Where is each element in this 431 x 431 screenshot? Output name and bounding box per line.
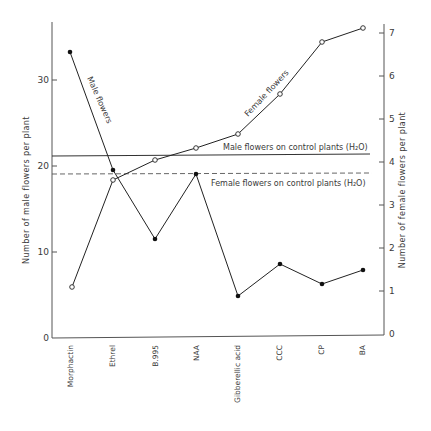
left-tick-label: 0 [43, 333, 49, 343]
left-tick-label: 20 [38, 161, 50, 171]
male-point [68, 50, 73, 55]
right-tick-label: 2 [389, 243, 395, 253]
right-axis-title: Number of female flowers per plant [398, 112, 407, 268]
left-tick-label: 10 [38, 247, 50, 257]
female-control-label: Female flowers on control plants (H₂O) [211, 179, 366, 188]
male-point [278, 262, 283, 267]
category-label: Ethrel [108, 345, 117, 367]
category-label: CCC [275, 345, 284, 361]
female-flowers-markers [70, 26, 366, 290]
female-point [70, 285, 75, 290]
category-label: NAA [192, 344, 201, 361]
right-tick-label: 7 [389, 28, 395, 38]
category-label: Gibberellic acid [233, 345, 242, 403]
male-control-line [52, 154, 370, 156]
right-tick-label: 5 [389, 114, 395, 124]
right-tick-label: 0 [389, 329, 395, 339]
male-control-label: Male flowers on control plants (H₂O) [223, 143, 368, 152]
category-labels: Morphactin Ethrel B.995 NAA Gibberellic … [66, 344, 367, 403]
left-axis-title: Number of male flowers per plant [22, 116, 31, 264]
left-axis-ticks: 0 10 20 30 [38, 75, 57, 343]
female-control-line [52, 173, 372, 174]
male-point [194, 172, 199, 177]
male-point [320, 282, 325, 287]
female-point [320, 40, 325, 45]
left-tick-label: 30 [38, 75, 50, 85]
right-tick-label: 3 [389, 200, 395, 210]
dual-axis-line-chart: 0 10 20 30 0 1 2 3 4 5 6 7 Number of mal… [0, 0, 431, 431]
right-tick-label: 4 [389, 157, 395, 167]
female-point [236, 132, 241, 137]
right-tick-label: 1 [389, 286, 395, 296]
female-point [153, 158, 158, 163]
male-flowers-line [70, 52, 363, 296]
female-point [194, 146, 199, 151]
female-point [111, 178, 116, 183]
male-series-label: Male flowers [85, 75, 114, 125]
category-label: CP [317, 345, 326, 355]
x-axis [52, 335, 384, 338]
female-flowers-line [72, 28, 363, 287]
right-axis-ticks: 0 1 2 3 4 5 6 7 [379, 28, 395, 339]
right-tick-label: 6 [389, 71, 395, 81]
category-label: B.995 [151, 345, 160, 367]
female-point [361, 26, 366, 31]
male-point [361, 268, 366, 273]
female-point [278, 92, 283, 97]
category-label: BA [358, 344, 367, 355]
male-point [236, 294, 241, 299]
category-label: Morphactin [66, 345, 75, 387]
female-series-label: Female flowers [243, 68, 291, 118]
male-point [111, 168, 116, 173]
male-point [153, 237, 158, 242]
